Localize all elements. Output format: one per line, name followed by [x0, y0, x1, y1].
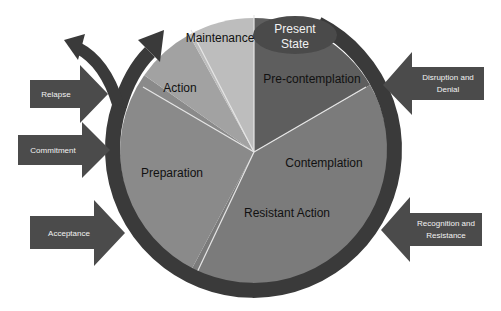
- present-state-line2: State: [281, 37, 309, 51]
- arrow-commitment-label: Commitment: [30, 146, 76, 155]
- arrow-disruption-and-denial: Disruption and Denial: [383, 52, 484, 115]
- label-pre-contemplation: Pre-contemplation: [263, 72, 360, 86]
- arrow-relapse-label: Relapse: [41, 90, 71, 99]
- arrow-acceptance: Acceptance: [30, 200, 125, 266]
- arrow-relapse: Relapse: [30, 65, 108, 123]
- label-action: Action: [163, 81, 196, 95]
- present-state-badge: Present State: [253, 16, 337, 54]
- change-cycle-diagram: Present State Pre-contemplation Contempl…: [0, 0, 501, 311]
- arrow-left-icon: [383, 52, 484, 115]
- label-resistant-action: Resistant Action: [244, 206, 330, 220]
- arrow-left-icon: [381, 197, 482, 262]
- arrow-recognition-line2: Resistance: [426, 231, 466, 240]
- label-preparation: Preparation: [141, 166, 203, 180]
- arrow-disruption-line2: Denial: [437, 85, 460, 94]
- label-contemplation: Contemplation: [285, 156, 362, 170]
- present-state-line1: Present: [274, 22, 316, 36]
- arrow-commitment: Commitment: [18, 122, 110, 178]
- arrow-disruption-line1: Disruption and: [422, 73, 474, 82]
- arrow-recognition-line1: Recognition and: [417, 219, 475, 228]
- arrow-recognition-and-resistance: Recognition and Resistance: [381, 197, 482, 262]
- label-maintenance: Maintenance: [186, 31, 255, 45]
- arrow-acceptance-label: Acceptance: [48, 229, 90, 238]
